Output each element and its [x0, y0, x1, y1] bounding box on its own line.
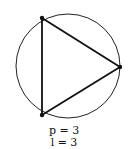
vertex-point [40, 16, 44, 20]
vertex-point [118, 65, 122, 69]
circle [16, 14, 120, 118]
vertex-point [40, 113, 44, 117]
lines-count-label: l = 3 [0, 137, 128, 149]
